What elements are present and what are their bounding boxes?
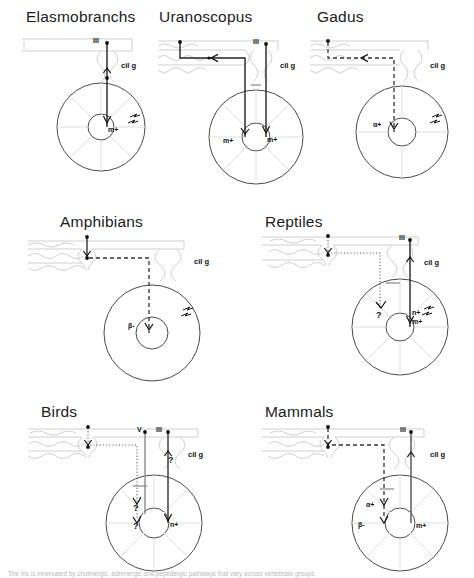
panel-diagram: III cil g ? n+ m+ bbox=[240, 205, 474, 395]
iris-disc-icon bbox=[106, 475, 202, 571]
light-stimulus-icon bbox=[430, 114, 442, 123]
iris-disc-icon bbox=[352, 475, 448, 571]
synapse-dot bbox=[85, 256, 89, 260]
ciliary-ganglion-label: cil g bbox=[121, 61, 137, 70]
iris-disc-icon bbox=[356, 86, 448, 178]
figure-caption: The iris is innervated by cholinergic, a… bbox=[8, 570, 470, 578]
panel-reptiles: Reptiles bbox=[240, 205, 474, 395]
nerve-origin-dot bbox=[408, 238, 412, 242]
unknown-origin-dot bbox=[86, 425, 90, 429]
sclera-band-icon bbox=[262, 237, 418, 277]
muscarinic-label-right: m+ bbox=[267, 136, 277, 143]
sclera-band-icon bbox=[262, 429, 424, 469]
unknown-pathway bbox=[88, 428, 137, 519]
panel-diagram: V III cil g ? ? ? n+ bbox=[20, 395, 260, 577]
iris-disc-icon bbox=[57, 83, 145, 171]
panel-diagram: III cil g α+ β- m+ bbox=[240, 395, 474, 577]
nicotinic-label: n+ bbox=[170, 521, 178, 528]
unknown-synapse-dot bbox=[86, 445, 90, 449]
synapse-dot bbox=[105, 76, 109, 80]
unknown-transmitter-label-1: ? bbox=[168, 455, 174, 465]
nerve-iii-label: III bbox=[156, 426, 162, 433]
ciliary-ganglion-label: cil g bbox=[194, 257, 210, 266]
nerve-iii-label: III bbox=[253, 38, 259, 45]
muscarinic-label: m+ bbox=[412, 318, 422, 325]
beta-receptor-label: β- bbox=[358, 521, 365, 529]
panel-elasmobranchs: Elasmobranchs bbox=[0, 0, 158, 190]
unknown-transmitter-label-3: ? bbox=[133, 521, 139, 531]
panel-diagram: cil g β- bbox=[20, 205, 260, 395]
secondary-origin-dot bbox=[178, 40, 182, 44]
nerve-v-label: V bbox=[137, 426, 142, 433]
alpha-receptor-label: α+ bbox=[373, 121, 381, 128]
secondary-synapse-dot bbox=[207, 56, 210, 59]
nerve-iii-label: III bbox=[400, 426, 406, 433]
arrow-down-marker-2 bbox=[84, 440, 91, 445]
iris-disc-icon bbox=[104, 285, 200, 381]
ciliary-ganglion-label: cil g bbox=[188, 450, 204, 459]
sclera-band-icon bbox=[310, 41, 428, 81]
sclera-band-icon bbox=[28, 241, 184, 281]
nicotinic-label: n+ bbox=[412, 309, 420, 316]
beta-receptor-label: β- bbox=[128, 322, 135, 330]
nerve-origin-dot bbox=[264, 42, 268, 46]
unknown-synapse-dot bbox=[326, 253, 330, 257]
unknown-transmitter-label-2: ? bbox=[133, 503, 139, 513]
arrow-down-marker-3 bbox=[380, 516, 388, 523]
unknown-origin-dot bbox=[326, 234, 330, 238]
nerve-iii-label: III bbox=[93, 37, 99, 44]
nerve-origin-dot bbox=[409, 430, 413, 434]
light-stimulus-icon bbox=[181, 307, 193, 316]
iris-disc-icon bbox=[352, 279, 448, 375]
nerve-iii-origin-dot bbox=[166, 430, 170, 434]
ciliary-ganglion-label: cil g bbox=[430, 450, 446, 459]
pathway-origin-dot bbox=[85, 235, 89, 239]
panel-diagram: III cil g m+ bbox=[0, 0, 158, 190]
panel-birds: Birds bbox=[20, 395, 260, 577]
muscarinic-label-left: m+ bbox=[223, 137, 233, 144]
sclera-band-icon bbox=[22, 39, 132, 82]
panel-amphibians: Amphibians bbox=[20, 205, 260, 395]
muscarinic-label: m+ bbox=[416, 522, 426, 529]
panel-gadus: Gadus bbox=[310, 0, 474, 190]
ciliary-ganglion-label: cil g bbox=[430, 61, 446, 70]
light-stimulus-icon bbox=[422, 306, 434, 315]
nerve-v-origin-dot bbox=[143, 430, 147, 434]
panel-diagram: cil g α+ bbox=[310, 0, 474, 190]
ciliary-ganglion-label: cil g bbox=[280, 61, 296, 70]
adrenergic-synapse-dot bbox=[326, 445, 330, 449]
panel-diagram: III cil g m+ m+ bbox=[150, 0, 320, 190]
panel-uranoscopus: Uranoscopus bbox=[150, 0, 320, 190]
nerve-iii-label: III bbox=[399, 234, 405, 241]
pathway-origin-dot bbox=[326, 39, 330, 43]
ciliary-ganglion-label: cil g bbox=[424, 258, 440, 267]
panel-mammals: Mammals bbox=[240, 395, 474, 577]
alpha-receptor-label: α+ bbox=[366, 501, 374, 508]
light-stimulus-icon bbox=[128, 114, 140, 123]
adrenergic-origin-dot bbox=[326, 425, 330, 429]
nerve-origin-dot bbox=[105, 41, 109, 45]
muscarinic-label: m+ bbox=[108, 126, 118, 133]
arrow-down-marker-3 bbox=[376, 301, 386, 308]
unknown-transmitter-label: ? bbox=[376, 310, 382, 320]
